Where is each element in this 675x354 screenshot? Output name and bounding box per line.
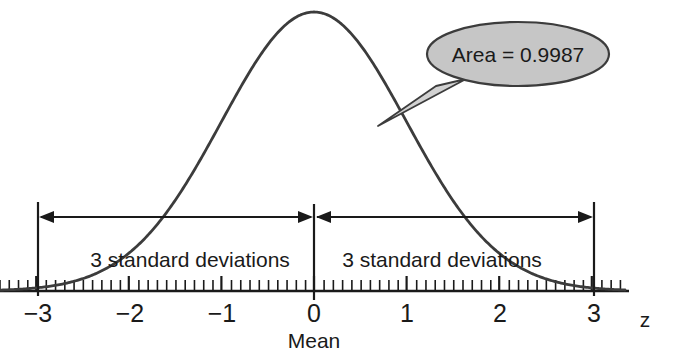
- arrowhead-right-east: [578, 211, 593, 223]
- arrowhead-right-west: [316, 211, 331, 223]
- axis-tick-label: 1: [400, 299, 414, 327]
- callout-pointer: [378, 79, 466, 126]
- mean-label: Mean: [288, 329, 341, 352]
- normal-distribution-figure: 3 standard deviations 3 standard deviati…: [0, 0, 675, 354]
- arrowhead-left-east: [298, 211, 313, 223]
- x-axis-name-label: z: [640, 308, 651, 331]
- chart-canvas: 3 standard deviations 3 standard deviati…: [0, 0, 675, 354]
- axis-tick-labels: −3−2−10123: [24, 299, 601, 327]
- right-band-label: 3 standard deviations: [342, 248, 542, 271]
- axis-tick-label: 3: [587, 299, 601, 327]
- axis-minor-ticks: [0, 280, 620, 290]
- axis-tick-label: 2: [493, 299, 507, 327]
- arrowhead-left-west: [39, 211, 54, 223]
- axis-tick-label: −1: [208, 299, 237, 327]
- left-band-label: 3 standard deviations: [90, 248, 290, 271]
- axis-tick-label: −2: [116, 299, 145, 327]
- axis-tick-label: −3: [24, 299, 53, 327]
- span-arrow-right: [316, 211, 593, 223]
- span-arrow-left: [39, 211, 313, 223]
- axis-tick-label: 0: [307, 299, 321, 327]
- callout-area-label: Area = 0.9987: [452, 43, 585, 66]
